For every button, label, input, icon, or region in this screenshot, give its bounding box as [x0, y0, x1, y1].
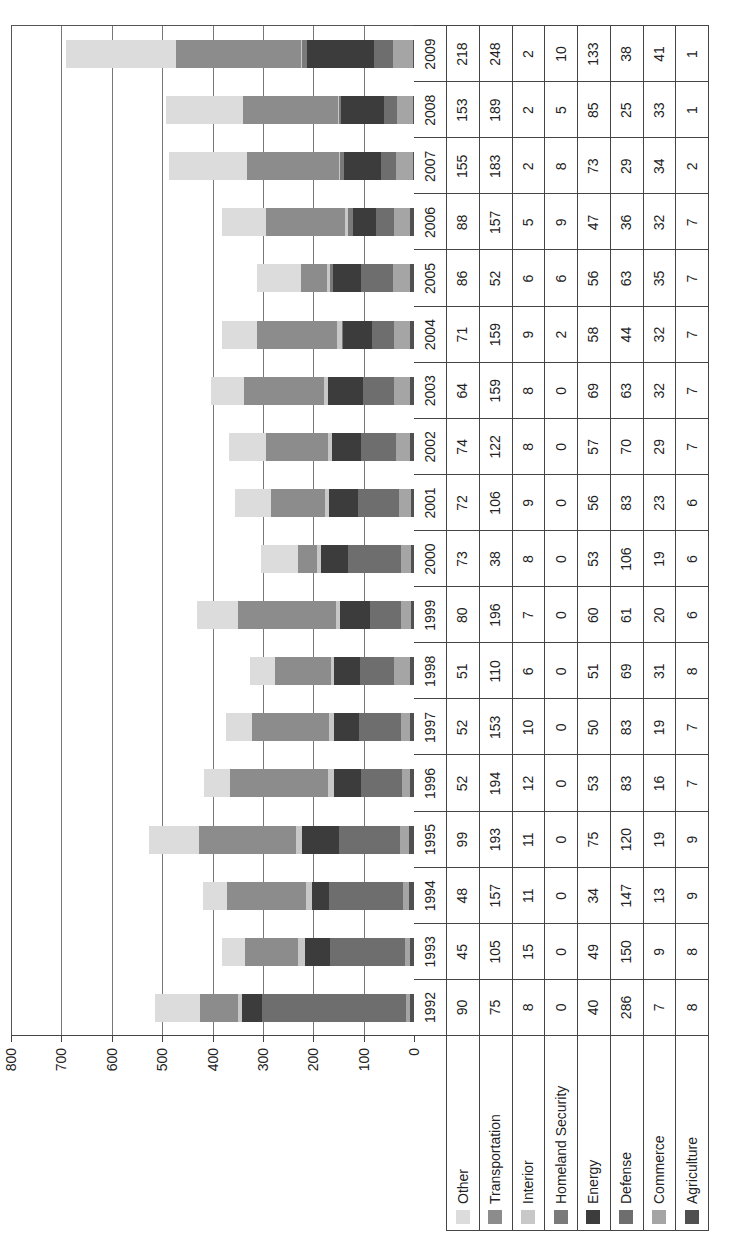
bar-segment-other: [211, 377, 243, 405]
table-cell: 7: [675, 418, 709, 475]
table-cell: 52: [446, 754, 480, 811]
y-tick-label: 800: [3, 1048, 19, 1088]
table-cell: 31: [643, 642, 677, 699]
table-cell: 38: [479, 530, 513, 587]
table-cell: 2: [512, 81, 546, 138]
bar-segment-transportation: [244, 377, 324, 405]
legend-item-agriculture: Agriculture: [675, 1035, 709, 1231]
bar-segment-defense: [370, 601, 401, 629]
table-cell: 9: [512, 474, 546, 531]
table-cell: 105: [479, 923, 513, 980]
year-cell: 2003: [414, 362, 447, 419]
tick-mark: [263, 1036, 264, 1042]
table-cell: 36: [610, 193, 644, 250]
bar-segment-interior: [329, 713, 334, 741]
legend-swatch: [521, 1210, 535, 1224]
bar-segment-other: [235, 489, 271, 517]
bar-segment-other: [204, 770, 230, 798]
table-cell: 0: [544, 754, 578, 811]
table-cell: 73: [446, 530, 480, 587]
bar-segment-defense: [384, 96, 397, 124]
bar-segment-transportation: [238, 601, 337, 629]
legend-label: Interior: [520, 1160, 536, 1204]
table-cell: 11: [512, 867, 546, 924]
bar-segment-energy: [334, 770, 361, 798]
table-cell: 153: [446, 81, 480, 138]
year-cell: 2009: [414, 25, 447, 82]
table-cell: 9: [675, 867, 709, 924]
bar-segment-interior: [336, 601, 340, 629]
table-cell: 147: [610, 867, 644, 924]
bar-segment-interior: [338, 96, 339, 124]
bar-segment-defense: [374, 40, 393, 68]
year-cell: 1998: [414, 642, 447, 699]
bar-segment-defense: [359, 713, 401, 741]
year-cell: 2007: [414, 137, 447, 194]
bar-segment-commerce: [394, 208, 410, 236]
legend-item-other: Other: [446, 1035, 480, 1231]
bar-segment-transportation: [275, 657, 330, 685]
table-cell: 80: [446, 586, 480, 643]
table-cell: 25: [610, 81, 644, 138]
bar-segment-energy: [328, 377, 363, 405]
table-cell: 8: [544, 137, 578, 194]
gridline: [112, 26, 113, 1036]
table-cell: 29: [610, 137, 644, 194]
table-cell: 51: [577, 642, 611, 699]
bar-segment-energy: [340, 601, 370, 629]
bar-segment-interior: [306, 882, 312, 910]
table-cell: 58: [577, 306, 611, 363]
bar-segment-transportation: [301, 265, 327, 293]
table-cell: 52: [479, 249, 513, 306]
bar-segment-homeland-security: [330, 265, 333, 293]
table-cell: 155: [446, 137, 480, 194]
table-cell: 45: [446, 923, 480, 980]
table-cell: 13: [643, 867, 677, 924]
bar-segment-transportation: [230, 770, 328, 798]
table-cell: 2: [675, 137, 709, 194]
y-tick-label: 500: [154, 1048, 170, 1088]
bar-segment-commerce: [393, 40, 414, 68]
table-cell: 8: [675, 642, 709, 699]
table-cell: 8: [512, 530, 546, 587]
bar-segment-transportation: [227, 882, 306, 910]
table-cell: 23: [643, 474, 677, 531]
y-tick-label: 200: [305, 1048, 321, 1088]
bar-segment-transportation: [252, 713, 329, 741]
table-cell: 6: [512, 642, 546, 699]
table-cell: 32: [643, 193, 677, 250]
legend-swatch: [456, 1210, 470, 1224]
table-cell: 86: [446, 249, 480, 306]
table-cell: 33: [643, 81, 677, 138]
bar-segment-defense: [376, 208, 394, 236]
table-cell: 47: [577, 193, 611, 250]
bar-segment-other: [229, 433, 266, 461]
table-cell: 6: [675, 474, 709, 531]
table-cell: 74: [446, 418, 480, 475]
bar-segment-other: [226, 713, 252, 741]
year-cell: 1994: [414, 867, 447, 924]
table-cell: 40: [577, 979, 611, 1036]
table-cell: 83: [610, 474, 644, 531]
table-cell: 286: [610, 979, 644, 1036]
table-cell: 38: [610, 25, 644, 82]
bar-segment-commerce: [399, 489, 411, 517]
bar-segment-interior: [331, 657, 334, 685]
table-cell: 7: [675, 249, 709, 306]
year-cell: 2001: [414, 474, 447, 531]
table-cell: 2: [544, 306, 578, 363]
table-cell: 194: [479, 754, 513, 811]
bar-segment-transportation: [245, 938, 298, 966]
table-cell: 6: [675, 586, 709, 643]
table-cell: 0: [544, 362, 578, 419]
tick-mark: [112, 1036, 113, 1042]
table-cell: 56: [577, 249, 611, 306]
table-cell: 106: [479, 474, 513, 531]
chart-figure: 0100200300400500600700800 19921993199419…: [0, 0, 742, 1240]
table-cell: 0: [544, 474, 578, 531]
table-cell: 0: [544, 530, 578, 587]
table-cell: 8: [512, 418, 546, 475]
table-cell: 71: [446, 306, 480, 363]
bar-segment-energy: [353, 208, 377, 236]
bar-segment-transportation: [176, 40, 301, 68]
